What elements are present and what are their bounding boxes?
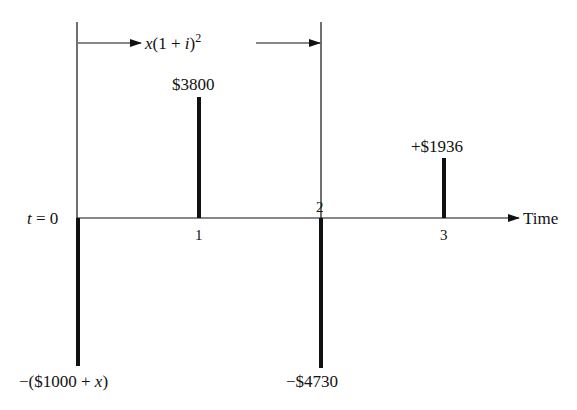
- flow-label-t0: −($1000 + x): [19, 372, 108, 391]
- cash-flow-diagram: x(1 + i)2 Time t = 0 1 2 3 −($1000 + x) …: [0, 0, 577, 410]
- flow-label-t3: +$1936: [411, 137, 463, 156]
- time-axis-label: Time: [523, 209, 558, 228]
- tick-label-3: 3: [440, 227, 448, 243]
- flow-label-t1: $3800: [172, 75, 215, 94]
- tick-label-1: 1: [195, 227, 203, 243]
- bracket-label: x(1 + i)2: [144, 31, 201, 53]
- tick-label-2: 2: [316, 199, 324, 215]
- flow-label-t2: −$4730: [286, 372, 338, 391]
- origin-label: t = 0: [27, 209, 58, 228]
